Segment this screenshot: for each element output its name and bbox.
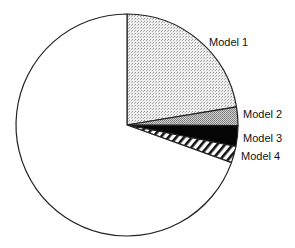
- slice-model-1: [127, 14, 237, 125]
- pie-slices: [16, 14, 238, 236]
- pie-chart: Model 1 Model 2 Model 3 Model 4: [0, 0, 295, 248]
- slice-label-model-1: Model 1: [209, 36, 248, 48]
- slice-label-model-4: Model 4: [241, 150, 280, 162]
- slice-label-model-2: Model 2: [243, 108, 282, 120]
- slice-label-model-3: Model 3: [243, 132, 282, 144]
